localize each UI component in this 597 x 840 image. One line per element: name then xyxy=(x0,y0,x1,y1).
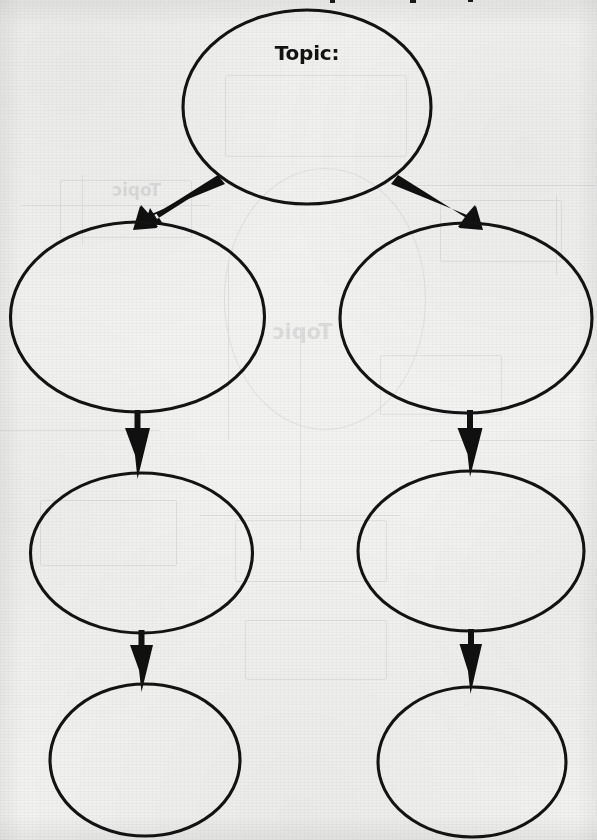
node-topic-label: Topic: xyxy=(275,41,340,65)
worksheet-page: Topic Topic xyxy=(0,0,597,840)
arrow-right-2-to-right-3 xyxy=(460,629,483,694)
node-right-3-write-area[interactable] xyxy=(402,707,544,819)
node-right-2-write-area[interactable] xyxy=(385,493,560,611)
arrow-right-1-to-right-2 xyxy=(458,410,483,477)
node-topic-write-area[interactable] xyxy=(205,72,410,182)
node-left-1-write-area[interactable] xyxy=(35,245,240,390)
node-right-1-write-area[interactable] xyxy=(364,246,569,391)
arrow-left-1-to-left-2 xyxy=(125,410,150,479)
node-left-3-write-area[interactable] xyxy=(75,705,217,817)
node-left-2-write-area[interactable] xyxy=(55,495,230,613)
